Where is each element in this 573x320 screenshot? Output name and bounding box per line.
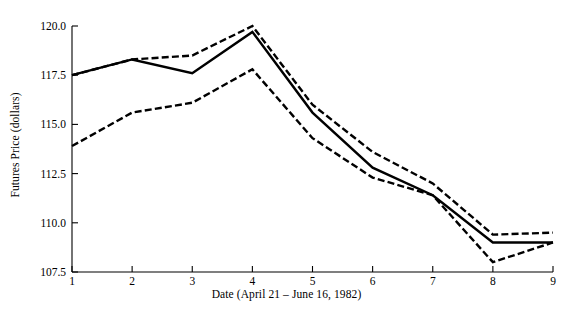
y-axis-tick-label: 117.5 (41, 69, 67, 81)
y-axis-tick-label: 120.0 (40, 20, 66, 32)
x-axis-tick-label: 4 (250, 275, 256, 287)
x-axis-title: Date (April 21 – June 16, 1982) (0, 288, 573, 300)
x-axis-title-text: Date (April 21 – June 16, 1982) (212, 288, 362, 300)
data-series-line (72, 26, 553, 235)
x-axis-tick-label: 1 (69, 275, 75, 287)
chart-plot-area: 120.0117.5115.0112.5110.0107.5 123456789 (0, 0, 573, 320)
x-axis-tick-label: 8 (490, 275, 496, 287)
x-axis-tick-label: 7 (430, 275, 436, 287)
x-axis-tick-label: 2 (129, 275, 135, 287)
futures-price-chart: Futures Price (dollars) 120.0117.5115.01… (0, 0, 573, 320)
y-axis-tick-label: 110.0 (41, 217, 67, 229)
y-axis-tick-label: 107.5 (40, 266, 66, 278)
x-axis-tick-label: 9 (550, 275, 556, 287)
x-axis-tick-label: 6 (370, 275, 376, 287)
y-axis-tick-label: 112.5 (41, 168, 67, 180)
y-axis-tick-label: 115.0 (41, 118, 67, 130)
data-series-group (72, 26, 553, 262)
x-axis-tick-label: 5 (310, 275, 316, 287)
x-axis-tick-label: 3 (189, 275, 195, 287)
x-axis-tick-group: 123456789 (69, 266, 556, 287)
